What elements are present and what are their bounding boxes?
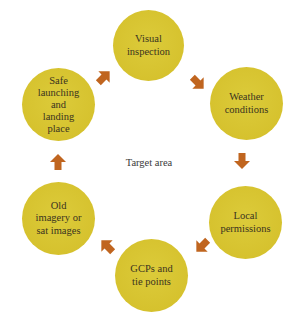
cycle-diagram: Visual inspection Weather conditions Loc… [0, 0, 299, 329]
arrow-up-right-icon [91, 64, 116, 89]
node-label: Old imagery or sat images [36, 200, 82, 238]
arrow-up-left-icon [94, 233, 119, 258]
node-gcps-and-tie-points: GCPs and tie points [115, 239, 188, 312]
arrow-down-left-icon [189, 233, 214, 258]
arrow-down-right-icon [185, 70, 210, 95]
node-label: Safe launching and landing place [38, 75, 79, 135]
node-label: GCPs and tie points [130, 263, 172, 288]
node-label: Visual inspection [127, 33, 170, 58]
arrow-up-icon [49, 153, 67, 171]
node-safe-launching: Safe launching and landing place [22, 68, 95, 141]
node-old-imagery: Old imagery or sat images [22, 182, 95, 255]
node-local-permissions: Local permissions [209, 186, 282, 259]
center-label-target-area: Target area [126, 157, 173, 168]
arrow-down-icon [233, 152, 251, 170]
node-label: Local permissions [220, 210, 270, 235]
node-weather-conditions: Weather conditions [210, 67, 283, 140]
node-label: Weather conditions [225, 91, 269, 116]
node-visual-inspection: Visual inspection [113, 10, 184, 81]
